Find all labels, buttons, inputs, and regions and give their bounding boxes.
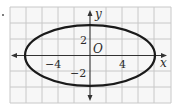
y-axis-label: y [94, 7, 102, 21]
origin-label: O [93, 42, 103, 56]
ellipse-graph: y x O 2 −2 −4 4 [0, 0, 176, 112]
tick-label-x-4: 4 [119, 58, 126, 71]
tick-label-y-2: 2 [80, 34, 87, 47]
problem-marker-dot [2, 14, 4, 16]
tick-label-x-neg4: −4 [45, 58, 61, 71]
tick-label-y-neg2: −2 [70, 67, 86, 80]
x-axis-label: x [160, 56, 167, 70]
